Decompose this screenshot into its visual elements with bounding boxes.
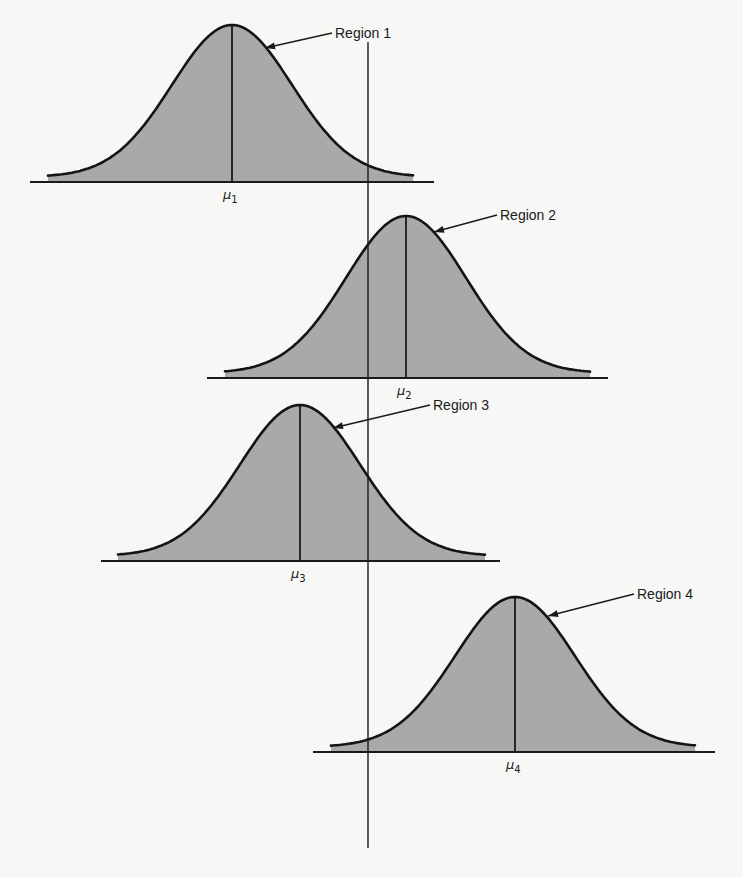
region-label: Region 4 [637,586,693,602]
pointer-arrow [548,594,634,616]
arrowhead-icon [333,422,344,429]
curve-shaded-area [118,405,485,561]
mean-label: μ4 [505,757,521,775]
mean-label: μ1 [222,187,238,205]
pointer-arrow [265,33,332,48]
region-label: Region 1 [335,25,391,41]
curves-group: μ1Region 1μ2Region 2μ3Region 3μ4Region 4 [30,25,715,775]
curve-shaded-area [48,25,413,182]
region-label: Region 3 [433,397,489,413]
distribution-2: μ2Region 2 [207,207,608,401]
mean-label: μ2 [396,383,412,401]
distribution-3: μ3Region 3 [101,397,500,584]
mean-label: μ3 [290,566,306,584]
arrowhead-icon [548,610,559,617]
pointer-arrow [333,405,430,428]
curve-shaded-area [225,216,590,378]
distribution-1: μ1Region 1 [30,25,434,205]
distribution-4: μ4Region 4 [313,586,715,775]
normal-distributions-diagram: μ1Region 1μ2Region 2μ3Region 3μ4Region 4 [0,0,743,877]
arrowhead-icon [434,226,445,233]
region-label: Region 2 [500,207,556,223]
